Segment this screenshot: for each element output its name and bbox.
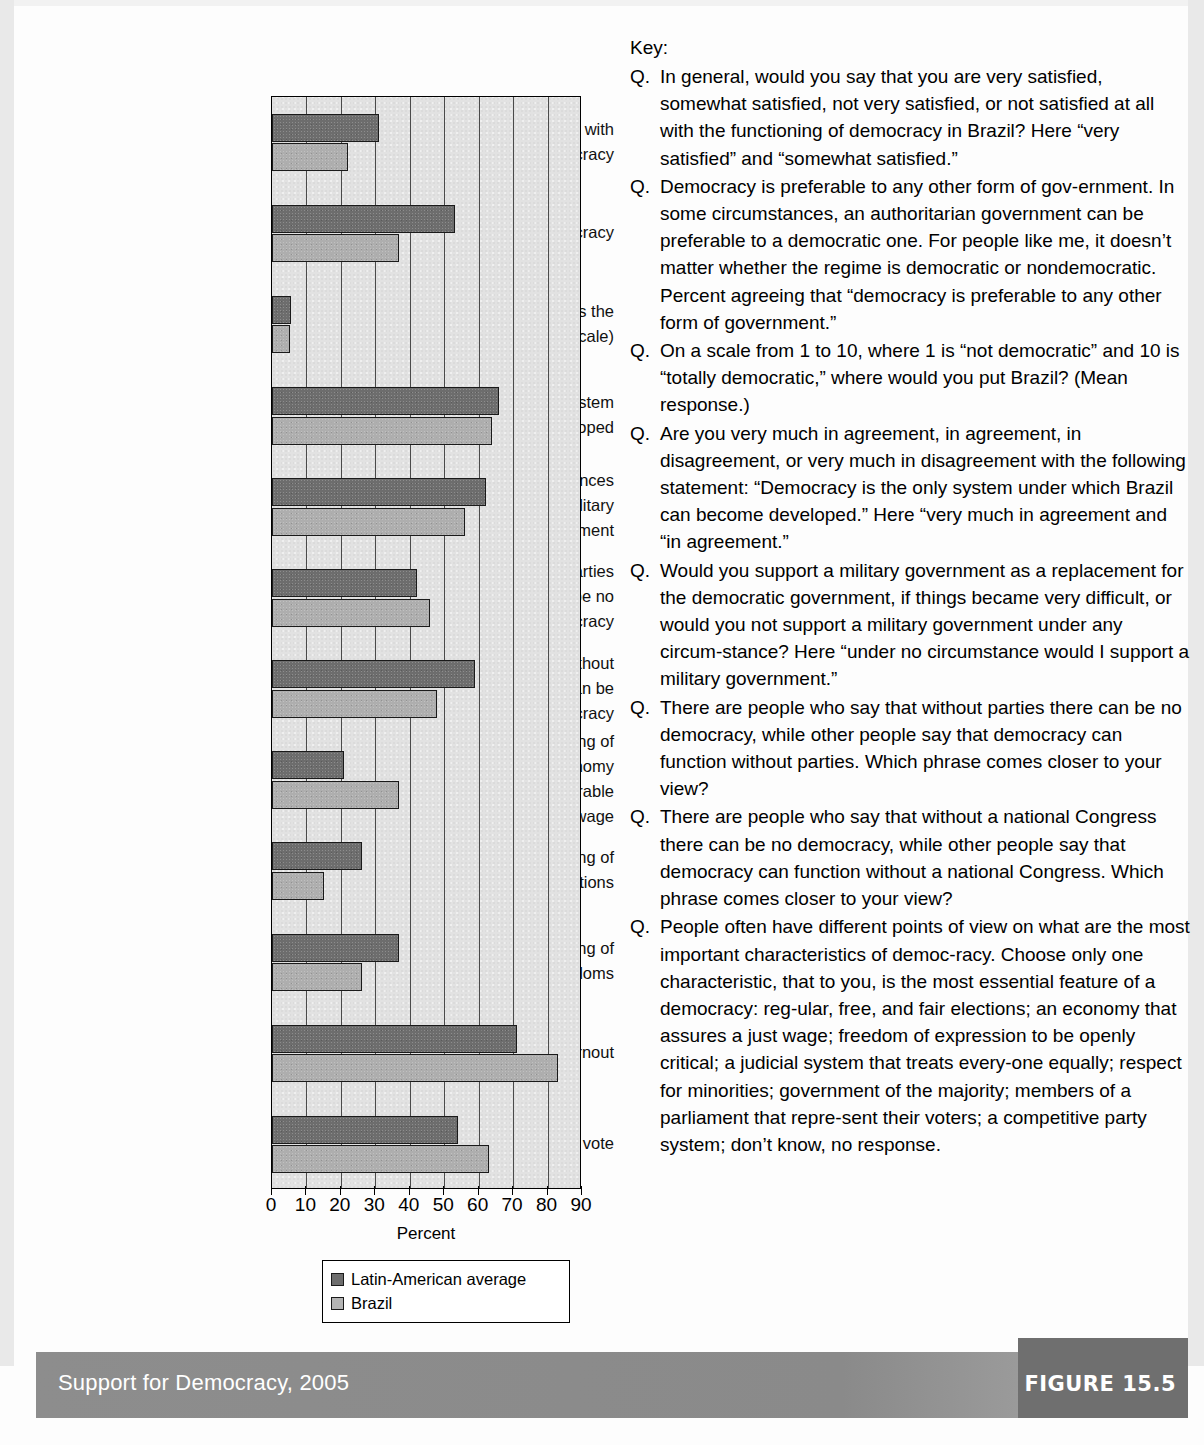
figure-number-label: FIGURE 15.5 xyxy=(1024,1372,1176,1396)
legend-item-latin-american-average: Latin-American average xyxy=(331,1267,561,1291)
bar-series-1-category-1 xyxy=(272,234,399,262)
key-item-3-text: Are you very much in agreement, in agree… xyxy=(660,420,1190,556)
legend-item-brazil: Brazil xyxy=(331,1291,561,1315)
bar-series-1-category-5 xyxy=(272,599,430,627)
key-item-2-text: On a scale from 1 to 10, where 1 is “not… xyxy=(660,337,1190,419)
bar-series-0-category-8 xyxy=(272,842,362,870)
chart-legend: Latin-American average Brazil xyxy=(322,1260,570,1323)
footer-title: Support for Democracy, 2005 xyxy=(58,1370,349,1396)
key-item-6: Q.There are people who say that without … xyxy=(630,803,1190,912)
bar-series-1-category-0 xyxy=(272,143,348,171)
bar-series-1-category-2 xyxy=(272,325,290,353)
x-tick-label-90: 90 xyxy=(570,1194,591,1216)
x-tick-label-70: 70 xyxy=(502,1194,523,1216)
key-item-3-marker: Q. xyxy=(630,420,660,447)
key-item-7: Q.People often have different points of … xyxy=(630,913,1190,1158)
legend-label-series-0: Latin-American average xyxy=(351,1267,526,1291)
x-tick-label-30: 30 xyxy=(364,1194,385,1216)
x-tick-label-50: 50 xyxy=(433,1194,454,1216)
key-item-0-text: In general, would you say that you are v… xyxy=(660,63,1190,172)
bar-series-0-category-10 xyxy=(272,1025,517,1053)
x-axis: 0102030405060708090 xyxy=(271,1194,591,1220)
legend-swatch-icon-series-1 xyxy=(331,1297,344,1310)
bar-series-1-category-9 xyxy=(272,963,362,991)
bar-series-0-category-1 xyxy=(272,205,455,233)
key-item-3: Q.Are you very much in agreement, in agr… xyxy=(630,420,1190,556)
x-tick-label-60: 60 xyxy=(467,1194,488,1216)
legend-label-series-1: Brazil xyxy=(351,1291,392,1315)
page-edge-top xyxy=(0,0,1204,6)
key-item-4-text: Would you support a military government … xyxy=(660,557,1190,693)
key-item-0-marker: Q. xyxy=(630,63,660,90)
plot-area-wrapper xyxy=(271,96,581,1189)
bar-series-0-category-6 xyxy=(272,660,475,688)
bar-series-0-category-7 xyxy=(272,751,344,779)
bar-series-0-category-0 xyxy=(272,114,379,142)
key-item-6-marker: Q. xyxy=(630,803,660,830)
x-tick-label-80: 80 xyxy=(536,1194,557,1216)
x-tick-label-10: 10 xyxy=(295,1194,316,1216)
key-title: Key: xyxy=(630,34,1190,61)
key-item-0: Q.In general, would you say that you are… xyxy=(630,63,1190,172)
x-tick-label-0: 0 xyxy=(266,1194,277,1216)
chart-panel: Satisfaction withdemocracySupport for de… xyxy=(14,8,614,1338)
gridline-80 xyxy=(548,97,549,1188)
bar-series-1-category-11 xyxy=(272,1145,489,1173)
bar-series-1-category-4 xyxy=(272,508,465,536)
key-item-2: Q.On a scale from 1 to 10, where 1 is “n… xyxy=(630,337,1190,419)
bar-series-0-category-5 xyxy=(272,569,417,597)
bar-series-0-category-11 xyxy=(272,1116,458,1144)
key-item-1: Q.Democracy is preferable to any other f… xyxy=(630,173,1190,336)
key-item-6-text: There are people who say that without a … xyxy=(660,803,1190,912)
bar-series-0-category-2 xyxy=(272,296,291,324)
key-panel: Key: Q.In general, would you say that yo… xyxy=(630,34,1190,1159)
plot-area xyxy=(271,96,581,1189)
page-edge-right xyxy=(1188,0,1204,1366)
x-tick-label-40: 40 xyxy=(398,1194,419,1216)
x-tick-label-20: 20 xyxy=(329,1194,350,1216)
figure-page: Satisfaction withdemocracySupport for de… xyxy=(0,0,1204,1445)
key-item-5-text: There are people who say that without pa… xyxy=(660,694,1190,803)
key-item-5: Q.There are people who say that without … xyxy=(630,694,1190,803)
legend-swatch-icon-series-0 xyxy=(331,1273,344,1286)
x-axis-title: Percent xyxy=(271,1224,581,1244)
bar-series-1-category-7 xyxy=(272,781,399,809)
bar-series-0-category-3 xyxy=(272,387,499,415)
bar-series-1-category-3 xyxy=(272,417,492,445)
bar-series-1-category-10 xyxy=(272,1054,558,1082)
page-edge-left xyxy=(0,0,14,1366)
bar-series-0-category-9 xyxy=(272,934,399,962)
key-item-5-marker: Q. xyxy=(630,694,660,721)
key-item-1-marker: Q. xyxy=(630,173,660,200)
key-item-2-marker: Q. xyxy=(630,337,660,364)
key-item-4: Q.Would you support a military governmen… xyxy=(630,557,1190,693)
key-item-7-marker: Q. xyxy=(630,913,660,940)
bar-series-0-category-4 xyxy=(272,478,486,506)
key-item-7-text: People often have different points of vi… xyxy=(660,913,1190,1158)
bar-series-1-category-8 xyxy=(272,872,324,900)
key-item-4-marker: Q. xyxy=(630,557,660,584)
key-item-1-text: Democracy is preferable to any other for… xyxy=(660,173,1190,336)
key-items-list: Q.In general, would you say that you are… xyxy=(630,63,1190,1158)
figure-footer: Support for Democracy, 2005 FIGURE 15.5 xyxy=(36,1352,1188,1418)
bar-series-1-category-6 xyxy=(272,690,437,718)
